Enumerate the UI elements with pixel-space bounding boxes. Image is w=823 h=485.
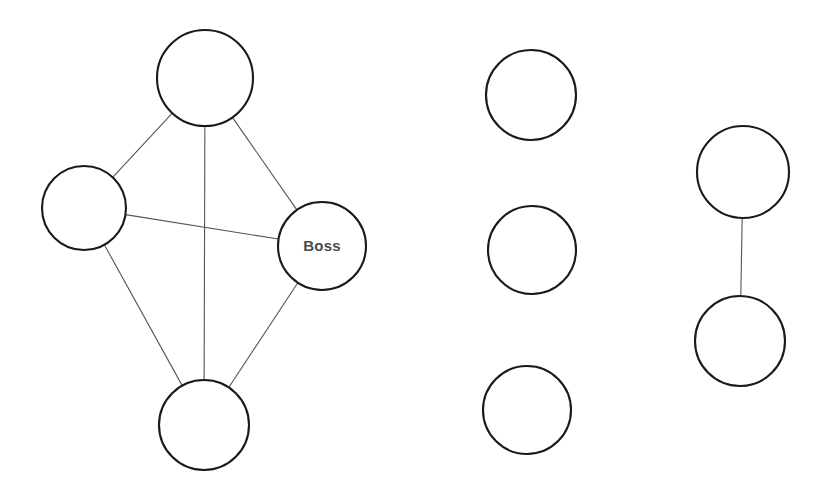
graph-edge [113, 113, 173, 177]
node-layer: Boss [42, 30, 789, 470]
node-circle[interactable] [695, 296, 785, 386]
graph-node[interactable] [486, 50, 576, 140]
graph-edge [741, 218, 742, 296]
node-label: Boss [303, 237, 340, 254]
graph-node[interactable] [488, 206, 576, 294]
graph-edge [125, 215, 278, 239]
node-circle[interactable] [157, 30, 253, 126]
graph-node[interactable] [42, 166, 126, 250]
graph-node[interactable] [483, 366, 571, 454]
graph-node-boss[interactable]: Boss [278, 202, 366, 290]
diagram-canvas: Boss [0, 0, 823, 485]
graph-edge [232, 117, 296, 210]
graph-edge [229, 283, 298, 388]
node-circle[interactable] [159, 380, 249, 470]
node-circle[interactable] [697, 126, 789, 218]
graph-edge [204, 126, 205, 380]
graph-node[interactable] [159, 380, 249, 470]
graph-node[interactable] [157, 30, 253, 126]
node-circle[interactable] [488, 206, 576, 294]
graph-node[interactable] [697, 126, 789, 218]
graph-edge [104, 245, 182, 386]
edge-layer [104, 113, 742, 387]
node-circle[interactable] [483, 366, 571, 454]
network-graph: Boss [0, 0, 823, 485]
node-circle[interactable] [486, 50, 576, 140]
graph-node[interactable] [695, 296, 785, 386]
node-circle[interactable] [42, 166, 126, 250]
